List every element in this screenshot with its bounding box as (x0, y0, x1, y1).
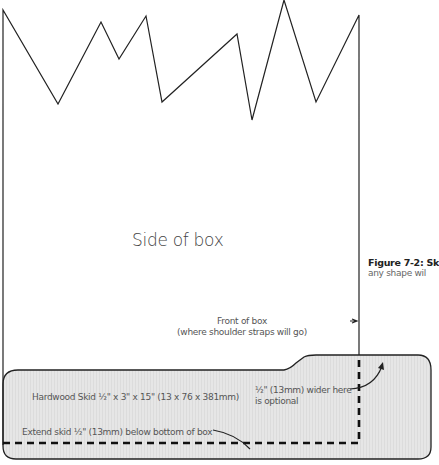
extend-skid-label: Extend skid ½" (13mm) below bottom of bo… (22, 427, 212, 438)
wider-label-line1: ½" (13mm) wider here (255, 385, 352, 396)
box-side-label: Side of box (132, 230, 223, 250)
wider-label-line2: is optional (255, 396, 352, 407)
front-label-line1: Front of box (162, 316, 322, 327)
front-of-box-label: Front of box (where shoulder straps will… (162, 316, 322, 338)
figure-caption: Figure 7-2: Sk any shape wil (368, 257, 439, 279)
wider-optional-label: ½" (13mm) wider here is optional (255, 385, 352, 407)
caption-title: Figure 7-2: Sk (368, 257, 439, 268)
front-arrow-icon (350, 319, 357, 323)
skid-diagram: Side of box Front of box (where shoulder… (0, 0, 439, 465)
caption-subtitle: any shape wil (368, 268, 439, 279)
front-label-line2: (where shoulder straps will go) (162, 327, 322, 338)
skid-dimensions-label: Hardwood Skid ½" x 3" x 15" (13 x 76 x 3… (32, 392, 239, 403)
